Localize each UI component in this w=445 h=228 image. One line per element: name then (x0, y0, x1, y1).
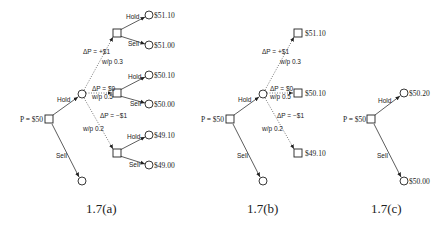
terminal-node (145, 11, 153, 19)
decision-node-b-root (226, 115, 234, 123)
terminal-node (145, 161, 153, 169)
payoff-value: $49.00 (154, 161, 175, 170)
root-label: P = $50 (20, 115, 43, 124)
payoff-value: $51.10 (154, 11, 175, 20)
edge-c-sell (374, 124, 401, 177)
payoff-value: $49.10 (154, 131, 175, 140)
decision-node-c-root (367, 115, 375, 123)
terminal-node-c-hold (400, 89, 408, 97)
hold-label: Hold (378, 97, 392, 104)
sell-label: Sell (56, 152, 67, 159)
tree-a: P = $50 Hold Sell ΔP = +$1 w/p 0.3 ΔP = … (20, 11, 175, 216)
sell-label: Sell (129, 161, 140, 168)
delta-label: ΔP = +$1 (83, 48, 110, 55)
payoff-value: $50.10 (154, 71, 175, 80)
terminal-node-c-sell (400, 177, 408, 185)
delta-label: ΔP = $0 (92, 85, 116, 92)
sell-label: Sell (237, 152, 248, 159)
payoff-value: $50.20 (409, 89, 430, 98)
payoff-value: $50.00 (154, 100, 175, 109)
hold-label: Hold (126, 13, 140, 20)
terminal-node (145, 71, 153, 79)
sell-label: Sell (377, 152, 388, 159)
tree-b: P = $50 Hold Sell ΔP = +$1 w/p 0.3 ΔP = … (201, 29, 326, 216)
chance-node-b (259, 90, 267, 98)
root-label: P = $50 (343, 115, 366, 124)
terminal-node (294, 149, 302, 157)
edge-b-down (265, 98, 294, 149)
prob-label: w/p 0.3 (279, 58, 301, 66)
delta-label: ΔP = $0 (270, 85, 294, 92)
payoff-value: $50.00 (409, 177, 430, 186)
edge-a-sell (52, 124, 79, 177)
prob-label: w/p 0.2 (261, 125, 283, 133)
terminal-node (145, 131, 153, 139)
edge-b-sell (233, 124, 260, 177)
decision-node-a-root (45, 115, 53, 123)
terminal-node (294, 89, 302, 97)
prob-label: w/p 0.5 (91, 93, 113, 101)
payoff-value: $50.10 (305, 89, 326, 98)
payoff-value: $49.10 (305, 149, 326, 158)
sell-label: Sell (128, 40, 139, 47)
figure-caption: 1.7(a) (86, 201, 117, 216)
delta-label: ΔP = −$1 (100, 112, 127, 119)
sell-label: Sell (130, 100, 141, 107)
hold-label: Hold (238, 96, 252, 103)
prob-label: w/p 0.5 (269, 93, 291, 101)
terminal-node-b-sell (259, 177, 267, 185)
root-label: P = $50 (201, 115, 224, 124)
prob-label: w/p 0.2 (82, 125, 104, 133)
decision-node-a-up (113, 29, 121, 37)
hold-label: Hold (57, 96, 71, 103)
terminal-node-a-sell (78, 177, 86, 185)
delta-label: ΔP = +$1 (262, 48, 289, 55)
figure-caption: 1.7(c) (371, 201, 402, 216)
decision-node-a-down (113, 149, 121, 157)
edge-a-down (84, 98, 113, 149)
chance-node-a (78, 90, 86, 98)
delta-label: ΔP = −$1 (277, 112, 304, 119)
decision-tree-figure: P = $50 Hold Sell ΔP = +$1 w/p 0.3 ΔP = … (0, 0, 445, 228)
hold-label: Hold (128, 73, 142, 80)
payoff-value: $51.00 (154, 41, 175, 50)
terminal-node (145, 100, 153, 108)
prob-label: w/p 0.3 (101, 58, 123, 66)
payoff-value: $51.10 (305, 29, 326, 38)
terminal-node (145, 41, 153, 49)
figure-caption: 1.7(b) (247, 201, 278, 216)
tree-c: P = $50 Hold Sell $50.20 $50.00 1.7(c) (343, 89, 430, 216)
hold-label: Hold (127, 133, 141, 140)
terminal-node (294, 29, 302, 37)
